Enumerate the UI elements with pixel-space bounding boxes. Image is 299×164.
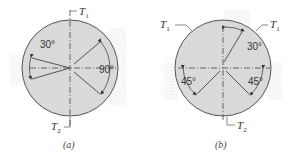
angle-label-90-a: 90° [99, 64, 114, 75]
panel-b: 30° 45° 45° T1 T1 T2 (b) [160, 10, 282, 151]
t2-leader-b [227, 117, 235, 125]
angle-label-30-b: 30° [247, 41, 262, 52]
torque-t2-a: T2 [51, 120, 61, 135]
torque-t2-b: T2 [237, 119, 247, 134]
torque-t1-a: T1 [79, 5, 89, 20]
angle-label-45-right-b: 45° [248, 76, 263, 87]
caption-b: (b) [215, 139, 227, 151]
t1-right-leader-b [256, 25, 268, 31]
panel-a: 30° 90° T1 T2 (a) [10, 5, 126, 151]
t1-left-leader-b [175, 25, 192, 31]
angle-label-30-a: 30° [40, 39, 55, 50]
caption-a: (a) [63, 139, 75, 151]
torque-t1-left-b: T1 [160, 18, 170, 33]
diagram-canvas: 30° 90° T1 T2 (a) 30° 45° 45° [0, 0, 299, 164]
torque-t1-right-b: T1 [270, 18, 280, 33]
angle-label-45-left-b: 45° [181, 76, 196, 87]
t2-leader-a [64, 118, 70, 127]
